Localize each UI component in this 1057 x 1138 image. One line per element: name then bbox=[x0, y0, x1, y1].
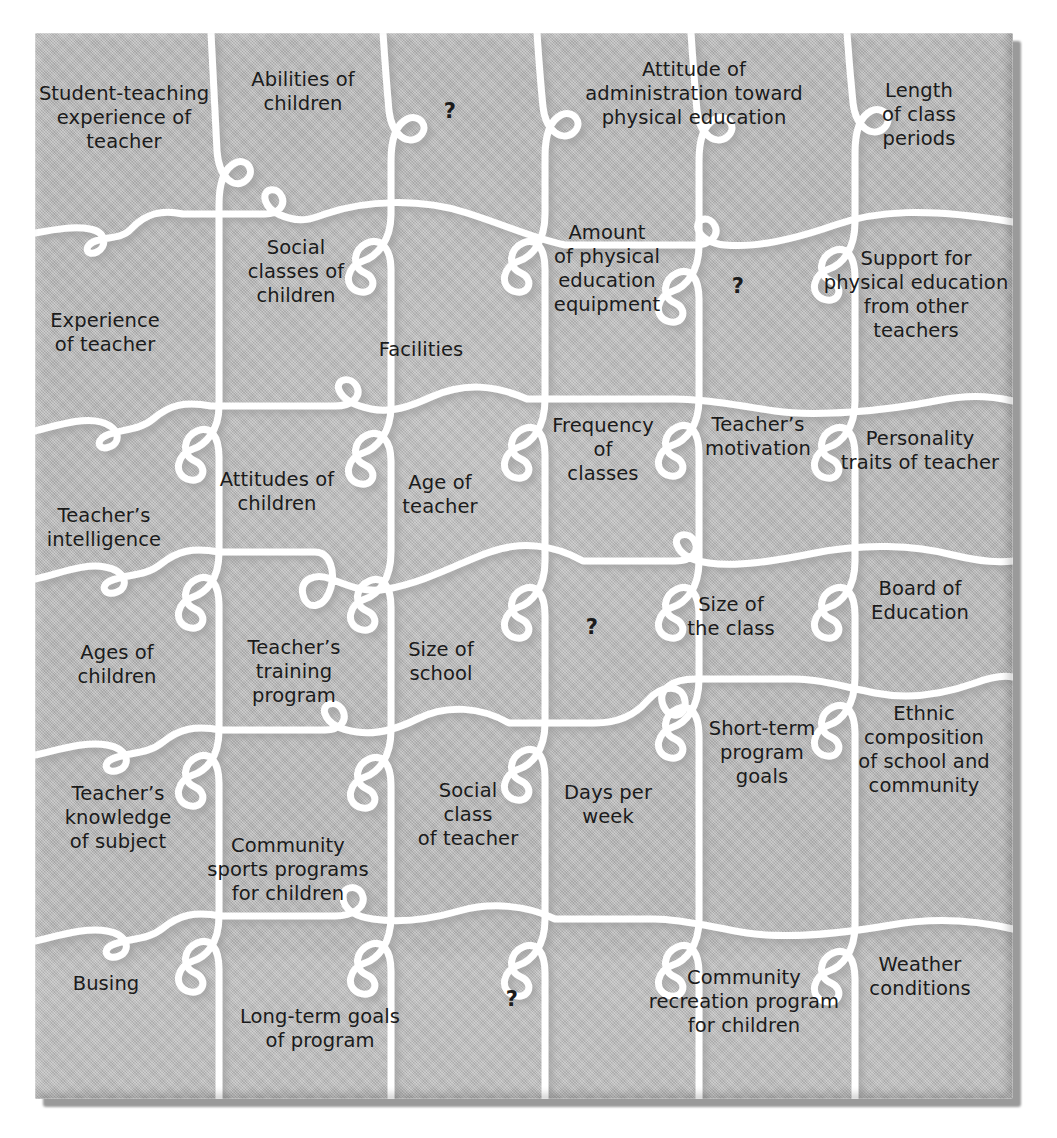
puzzle-piece-label: Short-term program goals bbox=[709, 717, 816, 789]
puzzle-board bbox=[35, 33, 1013, 1099]
puzzle-piece-label: Community sports programs for children bbox=[207, 834, 368, 906]
puzzle-piece-label: Board of Education bbox=[871, 577, 969, 625]
puzzle-piece-label: Social classes of children bbox=[248, 236, 345, 308]
puzzle-piece-label: Size of school bbox=[408, 638, 474, 686]
puzzle-piece-label: Teacher’s training program bbox=[248, 636, 341, 708]
puzzle-piece-label: Teacher’s knowledge of subject bbox=[65, 782, 172, 854]
puzzle-piece-unknown-label: ? bbox=[732, 274, 744, 300]
puzzle-piece-label: Attitude of administration toward physic… bbox=[585, 58, 802, 130]
puzzle-figure: Student-teaching experience of teacherAb… bbox=[0, 0, 1057, 1138]
puzzle-piece-label: Attitudes of children bbox=[220, 468, 334, 516]
puzzle-piece-label: Abilities of children bbox=[251, 68, 354, 116]
puzzle-piece-label: Teacher’s intelligence bbox=[47, 504, 161, 552]
puzzle-piece-label: Length of class periods bbox=[882, 79, 956, 151]
puzzle-piece-label: Community recreation program for childre… bbox=[649, 966, 839, 1038]
puzzle-piece-label: Long-term goals of program bbox=[240, 1005, 400, 1053]
puzzle-cut-lines bbox=[35, 33, 1013, 1099]
puzzle-piece-label: Ethnic composition of school and communi… bbox=[858, 702, 990, 798]
puzzle-piece-label: Size of the class bbox=[687, 593, 775, 641]
puzzle-piece-label: Weather conditions bbox=[869, 953, 970, 1001]
puzzle-piece-label: Student-teaching experience of teacher bbox=[39, 82, 209, 154]
puzzle-piece-label: Experience of teacher bbox=[50, 309, 160, 357]
puzzle-piece-label: Frequency of classes bbox=[552, 414, 654, 486]
puzzle-piece-unknown-label: ? bbox=[444, 99, 456, 125]
puzzle-piece-label: Teacher’s motivation bbox=[705, 413, 811, 461]
puzzle-piece-label: Days per week bbox=[564, 781, 652, 829]
puzzle-piece-label: Personality traits of teacher bbox=[841, 427, 999, 475]
puzzle-piece-label: Social class of teacher bbox=[418, 779, 519, 851]
puzzle-piece-unknown-label: ? bbox=[506, 987, 518, 1013]
puzzle-piece-label: Amount of physical education equipment bbox=[554, 221, 660, 317]
puzzle-piece-label: Support for physical education from othe… bbox=[824, 247, 1009, 343]
puzzle-piece-label: Facilities bbox=[379, 338, 464, 362]
puzzle-piece-label: Busing bbox=[73, 972, 140, 996]
puzzle-piece-label: Age of teacher bbox=[402, 471, 477, 519]
puzzle-piece-unknown-label: ? bbox=[586, 615, 598, 641]
puzzle-piece-label: Ages of children bbox=[77, 641, 156, 689]
